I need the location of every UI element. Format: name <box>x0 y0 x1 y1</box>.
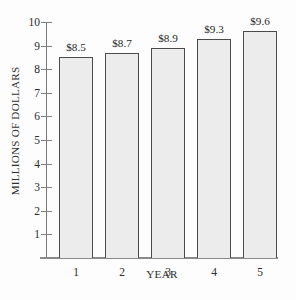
bar-value-label: $8.5 <box>66 41 86 54</box>
y-axis-tick-label: 4 <box>34 156 40 172</box>
plot-area: 10987654321 $8.5$8.7$8.9$9.3$9.6 12345 <box>46 22 278 258</box>
y-axis-tick-label: 6 <box>34 108 40 124</box>
bar[interactable] <box>197 39 231 258</box>
bar-value-label: $8.7 <box>112 37 132 50</box>
y-axis-tick-label: 5 <box>34 132 40 148</box>
y-axis-tick-label: 7 <box>34 85 40 101</box>
bar[interactable] <box>151 48 185 258</box>
y-axis-tick-label: 9 <box>34 38 40 54</box>
bar-chart: MILLIONS OF DOLLARS 10987654321 $8.5$8.7… <box>0 0 296 300</box>
bars-layer: $8.5$8.7$8.9$9.3$9.6 <box>46 22 278 258</box>
bar[interactable] <box>59 57 93 258</box>
x-axis-title: YEAR <box>46 268 278 280</box>
y-axis-title-label: MILLIONS OF DOLLARS <box>9 67 21 196</box>
y-axis-tick-label: 3 <box>34 179 40 195</box>
y-axis-tick-label: 1 <box>34 226 40 242</box>
bar-value-label: $9.3 <box>204 23 224 36</box>
bar-value-label: $9.6 <box>250 15 270 28</box>
bar[interactable] <box>105 53 139 258</box>
y-axis-tick-label: 10 <box>29 14 41 30</box>
y-axis-tick-label: 8 <box>34 61 40 77</box>
bar-value-label: $8.9 <box>158 32 178 45</box>
bar[interactable] <box>243 31 277 258</box>
y-axis-title: MILLIONS OF DOLLARS <box>4 0 26 262</box>
y-axis-tick-label: 2 <box>34 203 40 219</box>
